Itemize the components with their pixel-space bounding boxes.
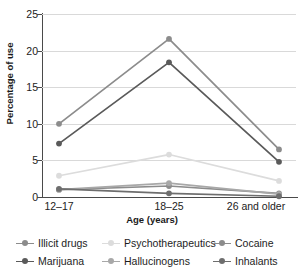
legend-label: Hallucinogens xyxy=(124,255,190,267)
legend-label: Marijuana xyxy=(38,255,84,267)
data-point xyxy=(166,190,172,196)
data-point xyxy=(166,59,172,65)
legend-item-illicit-drugs[interactable]: Illicit drugs xyxy=(16,236,88,250)
legend-marker-icon xyxy=(16,256,34,266)
series-layer xyxy=(42,14,296,197)
x-tick-label-26-and-older: 26 and older xyxy=(210,200,302,212)
line-chart: Percentage of use 25 20 15 10 5 0 12–17 … xyxy=(0,0,304,275)
x-axis-line xyxy=(42,197,298,198)
x-tick-label-18-25: 18–25 xyxy=(124,200,214,212)
data-point xyxy=(166,180,172,186)
legend-label: Psychotherapeutics xyxy=(124,237,216,249)
data-point xyxy=(276,159,282,165)
legend-dot xyxy=(108,258,114,264)
data-point xyxy=(166,152,172,158)
legend-item-cocaine[interactable]: Cocaine xyxy=(213,236,274,250)
legend-marker-icon xyxy=(213,256,231,266)
legend-item-hallucinogens[interactable]: Hallucinogens xyxy=(102,254,190,268)
data-point xyxy=(166,36,172,42)
series-line-psychotherapeutics xyxy=(59,155,279,181)
legend-dot xyxy=(108,240,114,246)
legend-label: Inhalants xyxy=(235,255,278,267)
legend-marker-icon xyxy=(102,256,120,266)
legend-dot xyxy=(22,258,28,264)
data-point xyxy=(56,121,62,127)
data-point xyxy=(56,173,62,179)
x-tick-label-12-17: 12–17 xyxy=(14,200,104,212)
y-axis-title: Percentage of use xyxy=(4,24,15,144)
legend-marker-icon xyxy=(16,238,34,248)
data-point xyxy=(276,193,282,199)
legend-dot xyxy=(22,240,28,246)
plot-area xyxy=(42,14,296,197)
chart-title xyxy=(0,0,304,3)
legend-marker-icon xyxy=(213,238,231,248)
data-point xyxy=(276,178,282,184)
legend-label: Illicit drugs xyxy=(38,237,88,249)
legend-dot xyxy=(219,240,225,246)
legend: Illicit drugs Psychotherapeutics Cocaine… xyxy=(0,234,304,275)
legend-marker-icon xyxy=(102,238,120,248)
legend-dot xyxy=(219,258,225,264)
data-point xyxy=(56,186,62,192)
data-point xyxy=(276,147,282,153)
legend-item-psychotherapeutics[interactable]: Psychotherapeutics xyxy=(102,236,216,250)
series-line-marijuana xyxy=(59,62,279,162)
legend-item-inhalants[interactable]: Inhalants xyxy=(213,254,278,268)
legend-item-marijuana[interactable]: Marijuana xyxy=(16,254,84,268)
x-axis-title: Age (years) xyxy=(0,214,304,225)
legend-label: Cocaine xyxy=(235,237,274,249)
data-point xyxy=(56,141,62,147)
